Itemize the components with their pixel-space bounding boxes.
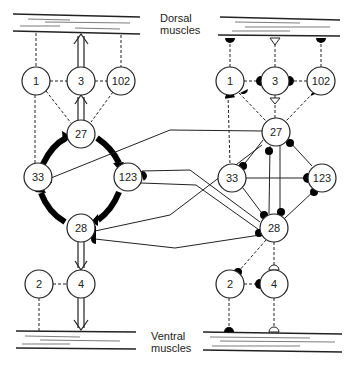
svg-text:102: 102 (312, 75, 330, 87)
svg-text:27: 27 (270, 126, 282, 138)
ventral-label-line1: Ventral (151, 330, 191, 342)
ventral-muscle-right (203, 332, 342, 352)
svg-text:123: 123 (313, 172, 331, 184)
ventral-muscle-left (16, 331, 136, 349)
svg-text:3: 3 (272, 75, 278, 87)
svg-text:28: 28 (75, 222, 87, 234)
dorsal-label-line1: Dorsal (160, 12, 200, 24)
svg-text:33: 33 (226, 172, 238, 184)
svg-text:33: 33 (32, 171, 44, 183)
svg-text:1: 1 (33, 75, 39, 87)
svg-text:1: 1 (227, 75, 233, 87)
svg-text:4: 4 (78, 278, 84, 290)
ventral-label-line2: muscles (151, 342, 191, 354)
svg-text:123: 123 (119, 171, 137, 183)
dorsal-muscle-left (13, 14, 140, 34)
network-diagram: 1 3 102 27 33 123 28 2 4 1 3 102 27 33 1… (0, 0, 361, 366)
left-ring-arrows (41, 138, 119, 222)
svg-text:102: 102 (112, 75, 130, 87)
ventral-muscles-label: Ventral muscles (151, 330, 191, 354)
dorsal-muscle-right (218, 17, 340, 36)
svg-text:3: 3 (78, 75, 84, 87)
svg-text:4: 4 (271, 278, 277, 290)
dorsal-muscles-label: Dorsal muscles (160, 12, 200, 36)
dorsal-label-line2: muscles (160, 24, 200, 36)
svg-text:2: 2 (36, 278, 42, 290)
svg-text:27: 27 (75, 128, 87, 140)
svg-text:28: 28 (268, 222, 280, 234)
svg-text:2: 2 (227, 278, 233, 290)
